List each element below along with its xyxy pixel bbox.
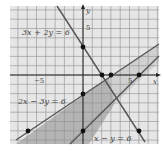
line-label-3x-plus-2y: 3x + 2y = 6 — [22, 28, 70, 37]
point-6-0 — [137, 73, 142, 78]
point-0-neg6 — [81, 129, 86, 134]
point-2-0 — [100, 73, 105, 78]
y-tick-label-5: 5 — [86, 24, 90, 32]
point-6-neg6 — [137, 129, 142, 134]
x-axis-label: x — [153, 78, 157, 86]
point-0-3 — [81, 45, 86, 50]
x-tick-label-5: 5 — [128, 77, 132, 85]
line-label-2x-minus-3y: 2x − 3y = 6 — [17, 97, 66, 106]
point-0-neg2 — [81, 92, 86, 97]
line-label-x-minus-y: x − y = 6 — [94, 134, 132, 143]
point-3-0 — [109, 73, 114, 78]
inequality-graph: 3x + 2y = 6 2x − 3y = 6 x − y = 6 x y −5… — [0, 0, 163, 151]
point-neg6-neg6 — [26, 129, 31, 134]
x-tick-label-neg5: −5 — [34, 77, 44, 85]
